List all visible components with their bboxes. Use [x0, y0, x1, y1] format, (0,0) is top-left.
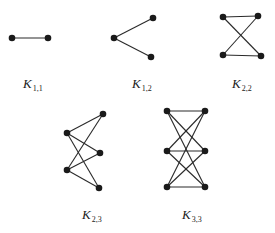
vertex [202, 184, 209, 191]
label-k22-subscript: 2,2 [242, 84, 252, 93]
vertex [97, 150, 104, 157]
vertex [220, 52, 227, 59]
label-k33-subscript: 3,3 [192, 215, 202, 224]
label-k12-subscript: 1,2 [142, 84, 152, 93]
label-k33-main: K [182, 207, 191, 222]
graph-k11 [9, 35, 52, 42]
vertex [258, 53, 265, 60]
label-k22-main: K [232, 76, 241, 91]
vertex [45, 35, 52, 42]
graph-k33 [164, 108, 209, 191]
vertex [64, 130, 71, 137]
graph-drawing [0, 0, 275, 233]
label-k11-subscript: 1,1 [33, 84, 43, 93]
vertex [64, 167, 71, 174]
label-k11-main: K [23, 76, 32, 91]
bipartite-graphs-diagram: K1,1 K1,2 K2,2 K2,3 K3,3 [0, 0, 275, 233]
label-k33: K3,3 [182, 208, 202, 224]
vertex [202, 148, 209, 155]
edge [114, 18, 153, 38]
edge [67, 133, 100, 153]
edge [223, 55, 261, 56]
label-k23: K2,3 [82, 208, 102, 224]
vertex [111, 35, 118, 42]
edge [67, 114, 103, 133]
graph-k22 [220, 13, 265, 60]
vertex [164, 108, 171, 115]
label-k12: K1,2 [132, 77, 152, 93]
label-k11: K1,1 [23, 77, 43, 93]
vertex [255, 13, 262, 20]
edge [114, 38, 151, 57]
label-k12-main: K [132, 76, 141, 91]
vertex [9, 35, 16, 42]
label-k22: K2,2 [232, 77, 252, 93]
vertex [100, 111, 107, 118]
edge [223, 17, 261, 56]
graph-k12 [111, 15, 157, 61]
vertex [220, 14, 227, 21]
label-k23-main: K [82, 207, 91, 222]
edge [67, 133, 99, 188]
vertex [150, 15, 157, 22]
edge [223, 16, 258, 17]
graph-k23 [64, 111, 107, 192]
vertex [164, 148, 171, 155]
vertex [202, 108, 209, 115]
label-k23-subscript: 2,3 [92, 215, 102, 224]
vertex [148, 54, 155, 61]
vertex [96, 185, 103, 192]
vertex [164, 184, 171, 191]
